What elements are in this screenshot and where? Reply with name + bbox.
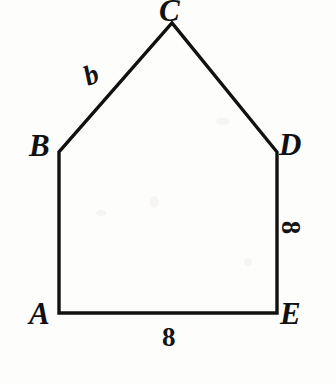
vertex-label-c: C (159, 0, 180, 26)
side-label-ae: 8 (162, 324, 176, 351)
vertex-label-b: B (29, 130, 50, 161)
vertex-label-a: A (29, 298, 50, 329)
side-label-de: 8 (277, 221, 304, 235)
geometry-figure: C B D A E b 8 8 (0, 0, 336, 384)
vertex-label-d: D (279, 129, 301, 160)
vertex-label-e: E (280, 298, 301, 329)
